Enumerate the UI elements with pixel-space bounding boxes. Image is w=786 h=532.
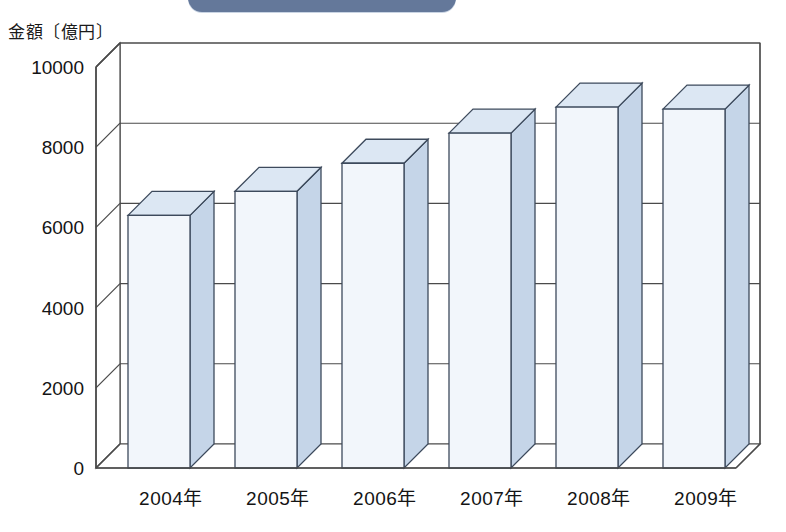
bar-front-face: [235, 191, 297, 468]
y-axis-tick-label: 8000: [42, 137, 84, 158]
x-axis-tick-label: 2008年: [567, 488, 631, 509]
bar-2005年[interactable]: [235, 167, 321, 468]
x-axis-tick-label: 2006年: [353, 488, 417, 509]
bar-front-face: [556, 107, 618, 468]
bar-2009年[interactable]: [663, 85, 749, 468]
bar-2004年[interactable]: [128, 191, 214, 468]
bar-side-face: [297, 167, 321, 468]
bar-2007年[interactable]: [449, 109, 535, 468]
x-axis-tick-label: 2004年: [139, 488, 203, 509]
chart-container: 金額〔億円〕 02000400060008000100002004年2005年2…: [0, 0, 786, 532]
bar-chart-plot: 02000400060008000100002004年2005年2006年200…: [0, 0, 786, 532]
bar-side-face: [404, 139, 428, 468]
bar-2006年[interactable]: [342, 139, 428, 468]
y-axis-tick-label: 10000: [31, 57, 84, 78]
y-axis-tick-label: 4000: [42, 298, 84, 319]
bar-side-face: [725, 85, 749, 468]
bar-side-face: [511, 109, 535, 468]
bar-side-face: [190, 191, 214, 468]
x-axis-tick-label: 2009年: [674, 488, 738, 509]
x-axis-tick-label: 2005年: [246, 488, 310, 509]
bar-front-face: [128, 215, 190, 468]
y-axis-tick-label: 6000: [42, 217, 84, 238]
bar-front-face: [342, 163, 404, 468]
chart-left-wall: [96, 43, 120, 468]
y-axis-tick-label: 2000: [42, 378, 84, 399]
bar-front-face: [449, 133, 511, 468]
bar-2008年[interactable]: [556, 83, 642, 468]
bar-side-face: [618, 83, 642, 468]
bar-front-face: [663, 109, 725, 468]
y-axis-tick-label: 0: [73, 458, 84, 479]
x-axis-tick-label: 2007年: [460, 488, 524, 509]
